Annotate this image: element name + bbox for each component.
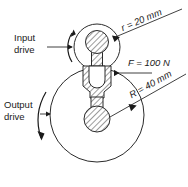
input-drive-label-line2: drive: [14, 44, 35, 55]
lower-crank-pin: [84, 106, 110, 132]
output-rotation-arc: [38, 92, 46, 138]
output-rotation-arrowhead: [38, 131, 45, 141]
mechanism-diagram: Input drive Output drive r = 20 mm R = 4…: [0, 0, 188, 187]
yoke-slot: [89, 66, 105, 88]
output-drive-label-line1: Output: [4, 99, 33, 110]
input-rotation-arc: [68, 33, 72, 62]
output-drive-label-line2: drive: [4, 111, 25, 122]
input-drive-label-line1: Input: [14, 32, 35, 43]
force-label: F = 100 N: [128, 57, 170, 68]
diagram-canvas: Input drive Output drive r = 20 mm R = 4…: [0, 0, 188, 187]
upper-crank-pin: [86, 31, 109, 54]
